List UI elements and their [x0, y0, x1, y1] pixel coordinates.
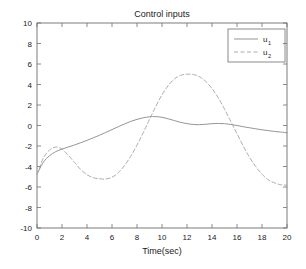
y-tick-label: 2: [28, 101, 33, 110]
x-tick-label: 0: [35, 233, 40, 242]
series-line-u1: [37, 117, 287, 175]
y-tick-label: 0: [28, 122, 33, 131]
legend-label-u2-subscript: 2: [268, 53, 271, 59]
x-axis-label: Time(sec): [142, 246, 182, 256]
y-tick-label: 8: [28, 40, 33, 49]
legend-label-u1-subscript: 1: [268, 40, 271, 46]
legend-label-u2: u: [263, 48, 267, 57]
x-tick-label: 16: [233, 233, 242, 242]
y-tick-label: 10: [23, 19, 32, 28]
x-axis-ticks: 02468101214161820: [35, 23, 292, 242]
x-tick-label: 20: [283, 233, 292, 242]
x-tick-label: 10: [158, 233, 167, 242]
y-tick-label: -6: [25, 183, 33, 192]
legend: u 1 u 2: [228, 29, 285, 62]
x-tick-label: 8: [135, 233, 140, 242]
legend-label-u1: u: [263, 35, 267, 44]
series-line-u2: [37, 74, 287, 185]
y-axis-ticks: 1086420-2-4-6-8-10: [20, 19, 287, 233]
y-tick-label: 6: [28, 60, 33, 69]
y-tick-label: -2: [25, 142, 33, 151]
x-tick-label: 2: [60, 233, 65, 242]
control-inputs-chart: 02468101214161820 1086420-2-4-6-8-10 Con…: [0, 0, 306, 269]
x-tick-label: 4: [85, 233, 90, 242]
y-tick-label: -4: [25, 163, 33, 172]
y-tick-label: -10: [20, 224, 32, 233]
y-tick-label: -8: [25, 204, 33, 213]
x-tick-label: 18: [258, 233, 267, 242]
page-title: Control inputs: [134, 9, 190, 19]
x-tick-label: 12: [183, 233, 192, 242]
chart-figure: 02468101214161820 1086420-2-4-6-8-10 Con…: [0, 0, 306, 269]
x-tick-label: 14: [208, 233, 217, 242]
legend-box: [228, 29, 285, 62]
x-tick-label: 6: [110, 233, 115, 242]
y-tick-label: 4: [28, 81, 33, 90]
plot-frame: [37, 23, 287, 228]
